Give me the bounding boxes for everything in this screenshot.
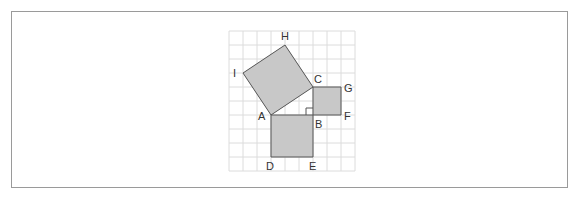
vertex-label-d: D xyxy=(266,160,274,172)
square-BCGF xyxy=(313,87,341,115)
pythagorean-diagram: HICGABFDE xyxy=(0,0,580,203)
square-ACHI xyxy=(243,45,313,115)
square-ABED xyxy=(271,115,313,157)
vertex-label-g: G xyxy=(344,82,353,94)
vertex-label-f: F xyxy=(344,110,351,122)
vertex-label-e: E xyxy=(309,160,316,172)
vertex-label-i: I xyxy=(233,67,236,79)
vertex-label-h: H xyxy=(281,30,289,42)
vertex-label-a: A xyxy=(258,110,266,122)
vertex-label-c: C xyxy=(314,73,322,85)
right-angle-marker xyxy=(306,108,313,115)
vertex-label-b: B xyxy=(315,118,322,130)
